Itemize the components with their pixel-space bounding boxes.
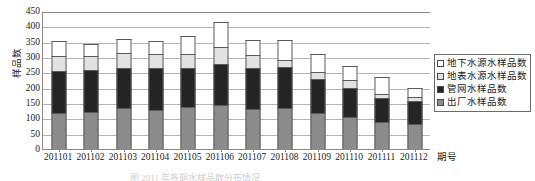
x-axis-tick-label: 201112 [400, 152, 428, 163]
bar-segment[interactable] [181, 54, 196, 68]
x-axis-tick-label: 201109 [303, 152, 331, 163]
bar-slot [302, 12, 334, 149]
y-axis-tick-label: 450 [14, 7, 40, 17]
bar-segment[interactable] [407, 88, 422, 97]
x-axis-tick-labels: 2011012011022011032011042011052011062011… [42, 152, 430, 166]
bar-segment[interactable] [246, 55, 261, 68]
bar-segment[interactable] [343, 66, 358, 80]
y-axis-tick-label: 300 [14, 53, 40, 63]
y-axis-tick-label: 350 [14, 38, 40, 48]
y-axis-tick-label: 50 [14, 130, 40, 140]
stacked-bar[interactable] [407, 88, 422, 149]
bar-segment[interactable] [343, 80, 358, 88]
legend-swatch-icon [437, 99, 444, 106]
bar-segment[interactable] [310, 54, 325, 72]
bar-segment[interactable] [149, 110, 164, 149]
stacked-bar[interactable] [84, 44, 99, 149]
bar-segment[interactable] [246, 40, 261, 55]
y-axis-tick-label: 200 [14, 84, 40, 94]
legend-item[interactable]: 出厂水样品数 [437, 96, 527, 109]
bar-segment[interactable] [84, 56, 99, 70]
y-axis-tick-label: 250 [14, 69, 40, 79]
bar-segment[interactable] [375, 98, 390, 122]
x-axis-tick-label: 201111 [368, 152, 395, 163]
stacked-bar[interactable] [213, 22, 228, 149]
bar-segment[interactable] [343, 117, 358, 149]
x-axis-tick-label: 201103 [109, 152, 137, 163]
bar-series-group [43, 12, 430, 149]
bar-segment[interactable] [213, 22, 228, 47]
bar-segment[interactable] [116, 39, 131, 53]
bar-segment[interactable] [84, 44, 99, 56]
y-axis-tick-label: 150 [14, 99, 40, 109]
stacked-bar[interactable] [246, 40, 261, 149]
bar-segment[interactable] [84, 70, 99, 112]
bar-segment[interactable] [278, 108, 293, 149]
bar-segment[interactable] [213, 64, 228, 105]
bar-segment[interactable] [181, 36, 196, 53]
bar-segment[interactable] [278, 60, 293, 67]
bar-segment[interactable] [116, 108, 131, 149]
stacked-bar[interactable] [310, 54, 325, 149]
bar-segment[interactable] [84, 112, 99, 149]
y-axis-tick-label: 400 [14, 23, 40, 33]
bar-segment[interactable] [181, 107, 196, 149]
legend-label: 地下水源水样品数 [447, 58, 527, 69]
bar-segment[interactable] [149, 68, 164, 110]
bar-segment[interactable] [278, 40, 293, 60]
y-axis-tick-labels: 050100150200250300350400450 [14, 0, 40, 181]
bar-segment[interactable] [246, 109, 261, 149]
legend-swatch-icon [437, 73, 444, 80]
bar-segment[interactable] [213, 47, 228, 64]
stacked-bar[interactable] [52, 41, 67, 149]
bar-segment[interactable] [52, 71, 67, 113]
bar-segment[interactable] [407, 124, 422, 149]
stacked-bar[interactable] [343, 66, 358, 149]
bar-slot [205, 12, 237, 149]
bar-slot [237, 12, 269, 149]
stacked-bar[interactable] [116, 39, 131, 149]
legend-item[interactable]: 管网水样品数 [437, 83, 527, 96]
bar-slot [43, 12, 75, 149]
bar-segment[interactable] [375, 77, 390, 94]
bar-slot [366, 12, 398, 149]
y-axis-tick-label: 0 [14, 145, 40, 155]
bar-slot [334, 12, 366, 149]
x-axis-tick-label: 201107 [238, 152, 266, 163]
x-axis-title: 期号 [437, 152, 457, 163]
bar-segment[interactable] [149, 41, 164, 54]
stacked-bar[interactable] [278, 40, 293, 149]
x-axis-tick-label: 201104 [141, 152, 169, 163]
bar-slot [172, 12, 204, 149]
stacked-bar[interactable] [181, 36, 196, 149]
legend-swatch-icon [437, 86, 444, 93]
legend-item[interactable]: 地下水源水样品数 [437, 57, 527, 70]
bar-segment[interactable] [278, 67, 293, 108]
bar-segment[interactable] [343, 88, 358, 117]
legend-item[interactable]: 地表水源水样品数 [437, 70, 527, 83]
bar-segment[interactable] [116, 68, 131, 108]
bar-segment[interactable] [149, 54, 164, 68]
bar-segment[interactable] [181, 68, 196, 108]
bar-slot [269, 12, 301, 149]
bar-segment[interactable] [310, 72, 325, 79]
bar-segment[interactable] [52, 41, 67, 56]
bar-segment[interactable] [407, 101, 422, 124]
x-axis-tick-label: 201105 [173, 152, 201, 163]
legend-label: 出厂水样品数 [447, 97, 507, 108]
bar-segment[interactable] [116, 53, 131, 68]
bar-slot [75, 12, 107, 149]
stacked-bar[interactable] [375, 77, 390, 149]
bar-segment[interactable] [375, 122, 390, 149]
y-axis-tick-label: 100 [14, 115, 40, 125]
bar-segment[interactable] [52, 56, 67, 71]
chart-legend: 地下水源水样品数地表水源水样品数管网水样品数出厂水样品数 [434, 54, 531, 112]
bar-segment[interactable] [246, 68, 261, 109]
bar-segment[interactable] [213, 105, 228, 149]
bar-segment[interactable] [310, 79, 325, 113]
legend-label: 地表水源水样品数 [447, 71, 527, 82]
bar-segment[interactable] [52, 113, 67, 149]
stacked-bar[interactable] [149, 41, 164, 149]
bar-segment[interactable] [310, 113, 325, 149]
bar-slot [108, 12, 140, 149]
